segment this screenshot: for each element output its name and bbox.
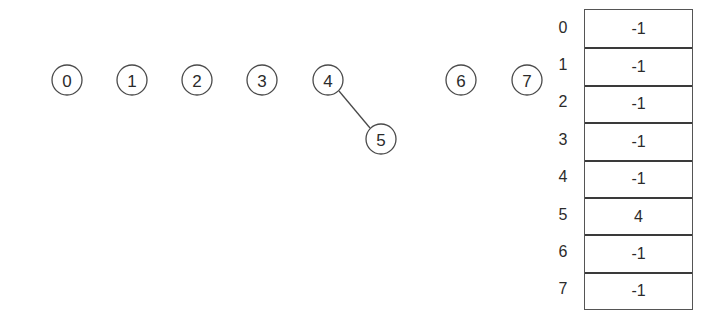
array-cell: -1 xyxy=(585,10,692,47)
node-6: 6 xyxy=(446,65,476,95)
node-label: 1 xyxy=(127,72,136,91)
node-3: 3 xyxy=(247,65,277,95)
array-cell: -1 xyxy=(585,272,692,309)
array-index: 3 xyxy=(548,121,578,158)
array-cell: 4 xyxy=(585,197,692,234)
node-label: 5 xyxy=(376,131,385,150)
parent-array: -1 -1 -1 -1 -1 4 -1 -1 xyxy=(584,9,693,310)
array-cell: -1 xyxy=(585,234,692,271)
array-index: 6 xyxy=(548,233,578,270)
edge-4-5 xyxy=(339,91,370,128)
array-index: 4 xyxy=(548,159,578,196)
node-4: 4 xyxy=(313,65,343,95)
node-0: 0 xyxy=(52,65,82,95)
array-index: 2 xyxy=(548,84,578,121)
node-2: 2 xyxy=(182,65,212,95)
array-cell: -1 xyxy=(585,122,692,159)
array-index-column: 0 1 2 3 4 5 6 7 xyxy=(548,9,578,308)
array-index: 7 xyxy=(548,271,578,308)
array-index: 1 xyxy=(548,46,578,83)
node-label: 7 xyxy=(522,72,531,91)
array-cell: -1 xyxy=(585,47,692,84)
array-index: 0 xyxy=(548,9,578,46)
node-label: 3 xyxy=(257,72,266,91)
node-label: 6 xyxy=(456,72,465,91)
array-index: 5 xyxy=(548,196,578,233)
array-cell: -1 xyxy=(585,85,692,122)
node-5: 5 xyxy=(366,124,396,154)
node-label: 0 xyxy=(62,72,71,91)
node-7: 7 xyxy=(512,65,542,95)
node-1: 1 xyxy=(117,65,147,95)
node-label: 4 xyxy=(323,72,332,91)
array-cell: -1 xyxy=(585,160,692,197)
node-label: 2 xyxy=(192,72,201,91)
